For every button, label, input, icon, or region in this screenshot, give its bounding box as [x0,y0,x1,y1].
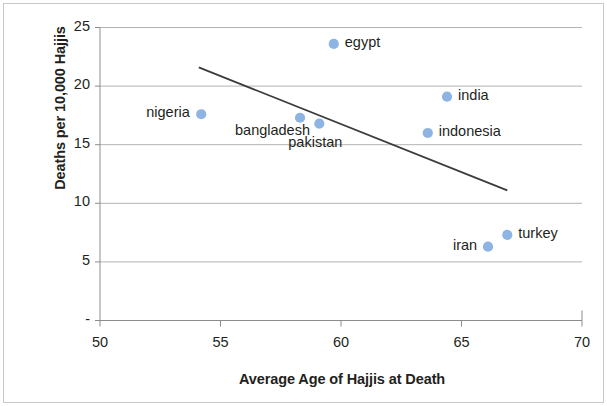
point-label-indonesia: indonesia [439,123,501,139]
x-tick-label: 65 [442,334,482,350]
gridlines-group [100,28,582,321]
y-tick-label: 10 [56,193,90,209]
y-tick-label: - [56,311,90,327]
data-point [483,242,493,252]
point-label-egypt: egypt [345,34,380,50]
ticks-group [95,28,582,327]
point-label-india: india [458,87,489,103]
point-label-pakistan: pakistan [288,134,342,150]
x-tick-label: 50 [80,334,120,350]
axes-group [100,28,582,321]
data-point [196,109,206,119]
y-tick-label: 25 [56,18,90,34]
x-tick-label: 60 [321,334,361,350]
data-point [423,128,433,138]
data-point [329,39,339,49]
data-point [502,230,512,240]
chart-figure: Deaths per 10,000 Hajjis Average Age of … [0,0,607,406]
x-tick-label: 55 [201,334,241,350]
point-label-nigeria: nigeria [146,104,190,120]
x-tick-label: 70 [562,334,602,350]
x-axis-title: Average Age of Hajjis at Death [100,371,584,387]
y-tick-label: 20 [56,76,90,92]
y-tick-label: 5 [56,252,90,268]
y-tick-label: 15 [56,135,90,151]
point-label-turkey: turkey [518,225,558,241]
data-points-group [196,39,512,252]
point-label-iran: iran [453,237,477,253]
data-point [314,119,324,129]
data-point [442,92,452,102]
